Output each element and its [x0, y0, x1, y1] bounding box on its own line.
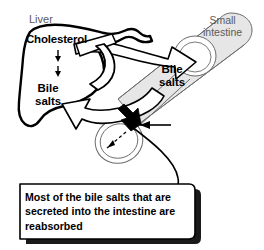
label-small-intestine: Small intestine	[203, 15, 242, 39]
label-liver: Liver	[29, 14, 53, 26]
label-cholesterol: Cholesterol	[26, 33, 87, 45]
label-bile-salts-liver: Bile salts	[35, 82, 61, 107]
callout-text: Most of the bile salts that are secreted…	[25, 190, 185, 233]
bile-salt-circulation-diagram: Liver Small intestine Cholesterol Bile s…	[0, 0, 264, 250]
label-bile-salts-intestine: Bile salts	[159, 63, 185, 88]
